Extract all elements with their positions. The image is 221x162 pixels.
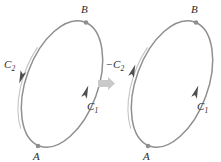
point-a-dot-left	[36, 144, 41, 149]
label-point-b-right: B	[191, 3, 198, 15]
label-arc-neg-c2-right: − C 2	[106, 58, 125, 73]
right-panel-reversed-orientation: B A C 1 − C 2	[106, 3, 221, 162]
label-point-a-left: A	[32, 150, 40, 162]
label-arc-c1-right-subscript: 1	[205, 106, 209, 115]
curve-highlight-right	[116, 46, 158, 128]
label-arc-c1-left-subscript: 1	[95, 106, 99, 115]
label-arc-c2-left-subscript: 2	[12, 64, 16, 73]
label-point-a-right: A	[142, 150, 150, 162]
point-b-dot-right	[194, 20, 199, 25]
label-point-b-left: B	[81, 3, 88, 15]
curve-highlight-left	[6, 46, 48, 128]
point-a-dot-right	[146, 144, 151, 149]
c1-arrowhead-left	[81, 84, 91, 98]
label-arc-neg-c2-subscript: 2	[121, 64, 125, 73]
c1-arrowhead-right	[191, 84, 201, 98]
curve-orientation-diagram: B A C 1 C 2	[0, 0, 221, 162]
point-b-dot-left	[84, 20, 89, 25]
label-arc-c2-left: C 2	[4, 58, 16, 73]
label-arc-neg-c2-sign: −	[106, 58, 112, 70]
